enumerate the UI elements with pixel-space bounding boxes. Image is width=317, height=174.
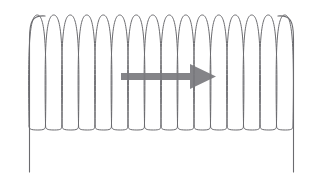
coil-diagram	[0, 0, 317, 174]
figure-canvas	[0, 0, 317, 174]
